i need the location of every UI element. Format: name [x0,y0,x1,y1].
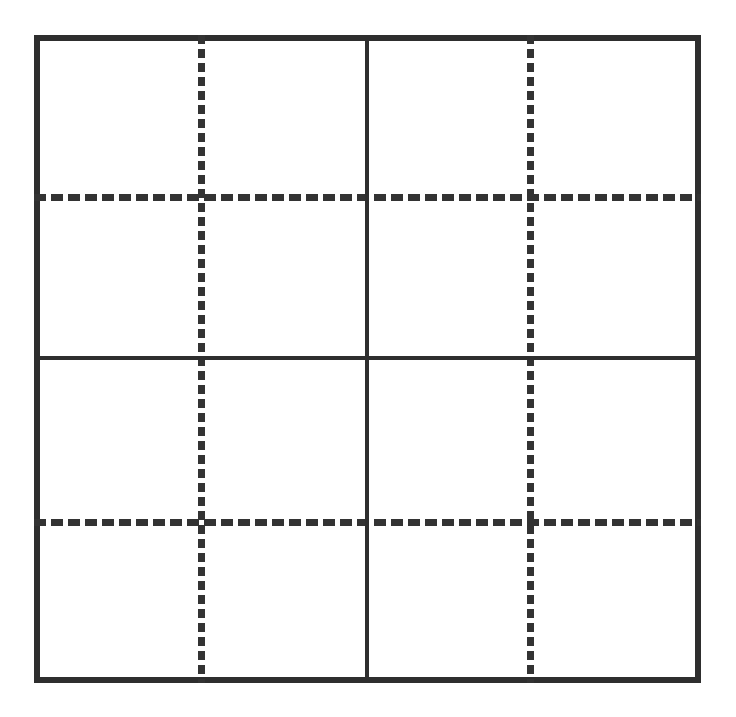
diagram-canvas [0,0,736,717]
solid-horizontal-center-line [34,356,701,360]
